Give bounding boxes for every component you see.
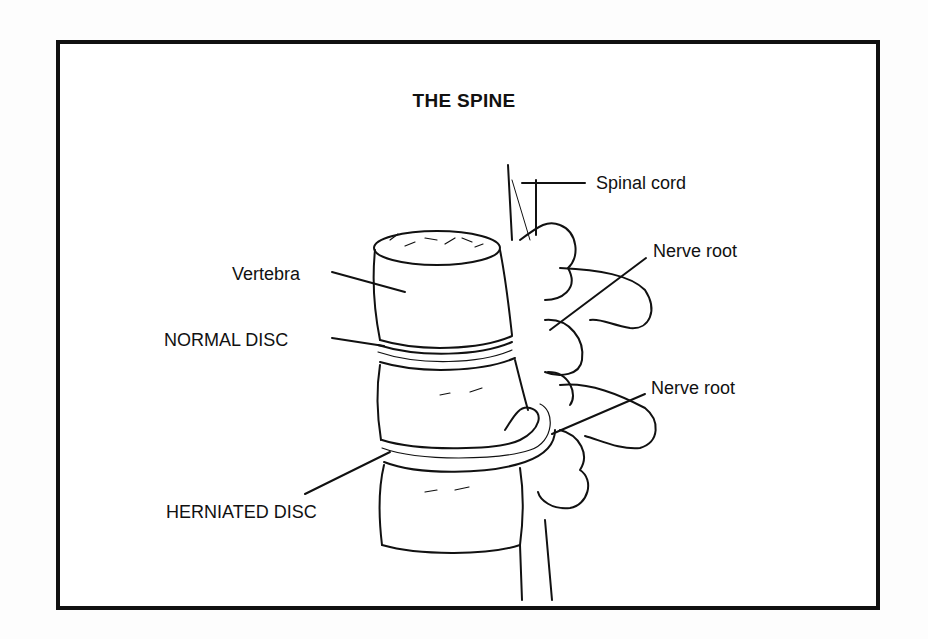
spinal-cord-shape: [508, 165, 552, 600]
label-normal-disc: NORMAL DISC: [164, 330, 288, 351]
label-herniated-disc: HERNIATED DISC: [166, 502, 317, 523]
leader-normal-disc: [332, 338, 384, 346]
leader-herniated-disc: [305, 452, 390, 494]
label-nerve-root-lower: Nerve root: [651, 378, 735, 399]
label-spinal-cord: Spinal cord: [596, 173, 686, 194]
spine-illustration: [0, 0, 928, 639]
leader-nerve-root-lower: [552, 394, 645, 434]
label-vertebra: Vertebra: [232, 264, 300, 285]
leader-vertebra: [332, 272, 405, 292]
label-nerve-root-upper: Nerve root: [653, 241, 737, 262]
